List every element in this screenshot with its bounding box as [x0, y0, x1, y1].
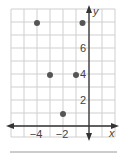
data-point — [80, 20, 86, 26]
tick-labels: −4−2246 — [30, 42, 86, 140]
y-axis-label: y — [92, 5, 100, 17]
y-tick-label: 4 — [80, 68, 86, 80]
y-tick-label: 6 — [80, 42, 86, 54]
x-axis-label: x — [108, 127, 115, 139]
data-point — [34, 20, 40, 26]
data-point — [73, 72, 79, 78]
x-axis-left-arrow-icon — [6, 123, 14, 129]
data-point — [60, 111, 66, 117]
coordinate-plane: −4−2246 y x — [0, 0, 124, 154]
y-tick-label: 2 — [80, 94, 86, 106]
x-tick-label: −2 — [56, 128, 69, 140]
data-point — [47, 72, 53, 78]
grid-lines — [11, 9, 115, 137]
x-tick-label: −4 — [30, 128, 43, 140]
